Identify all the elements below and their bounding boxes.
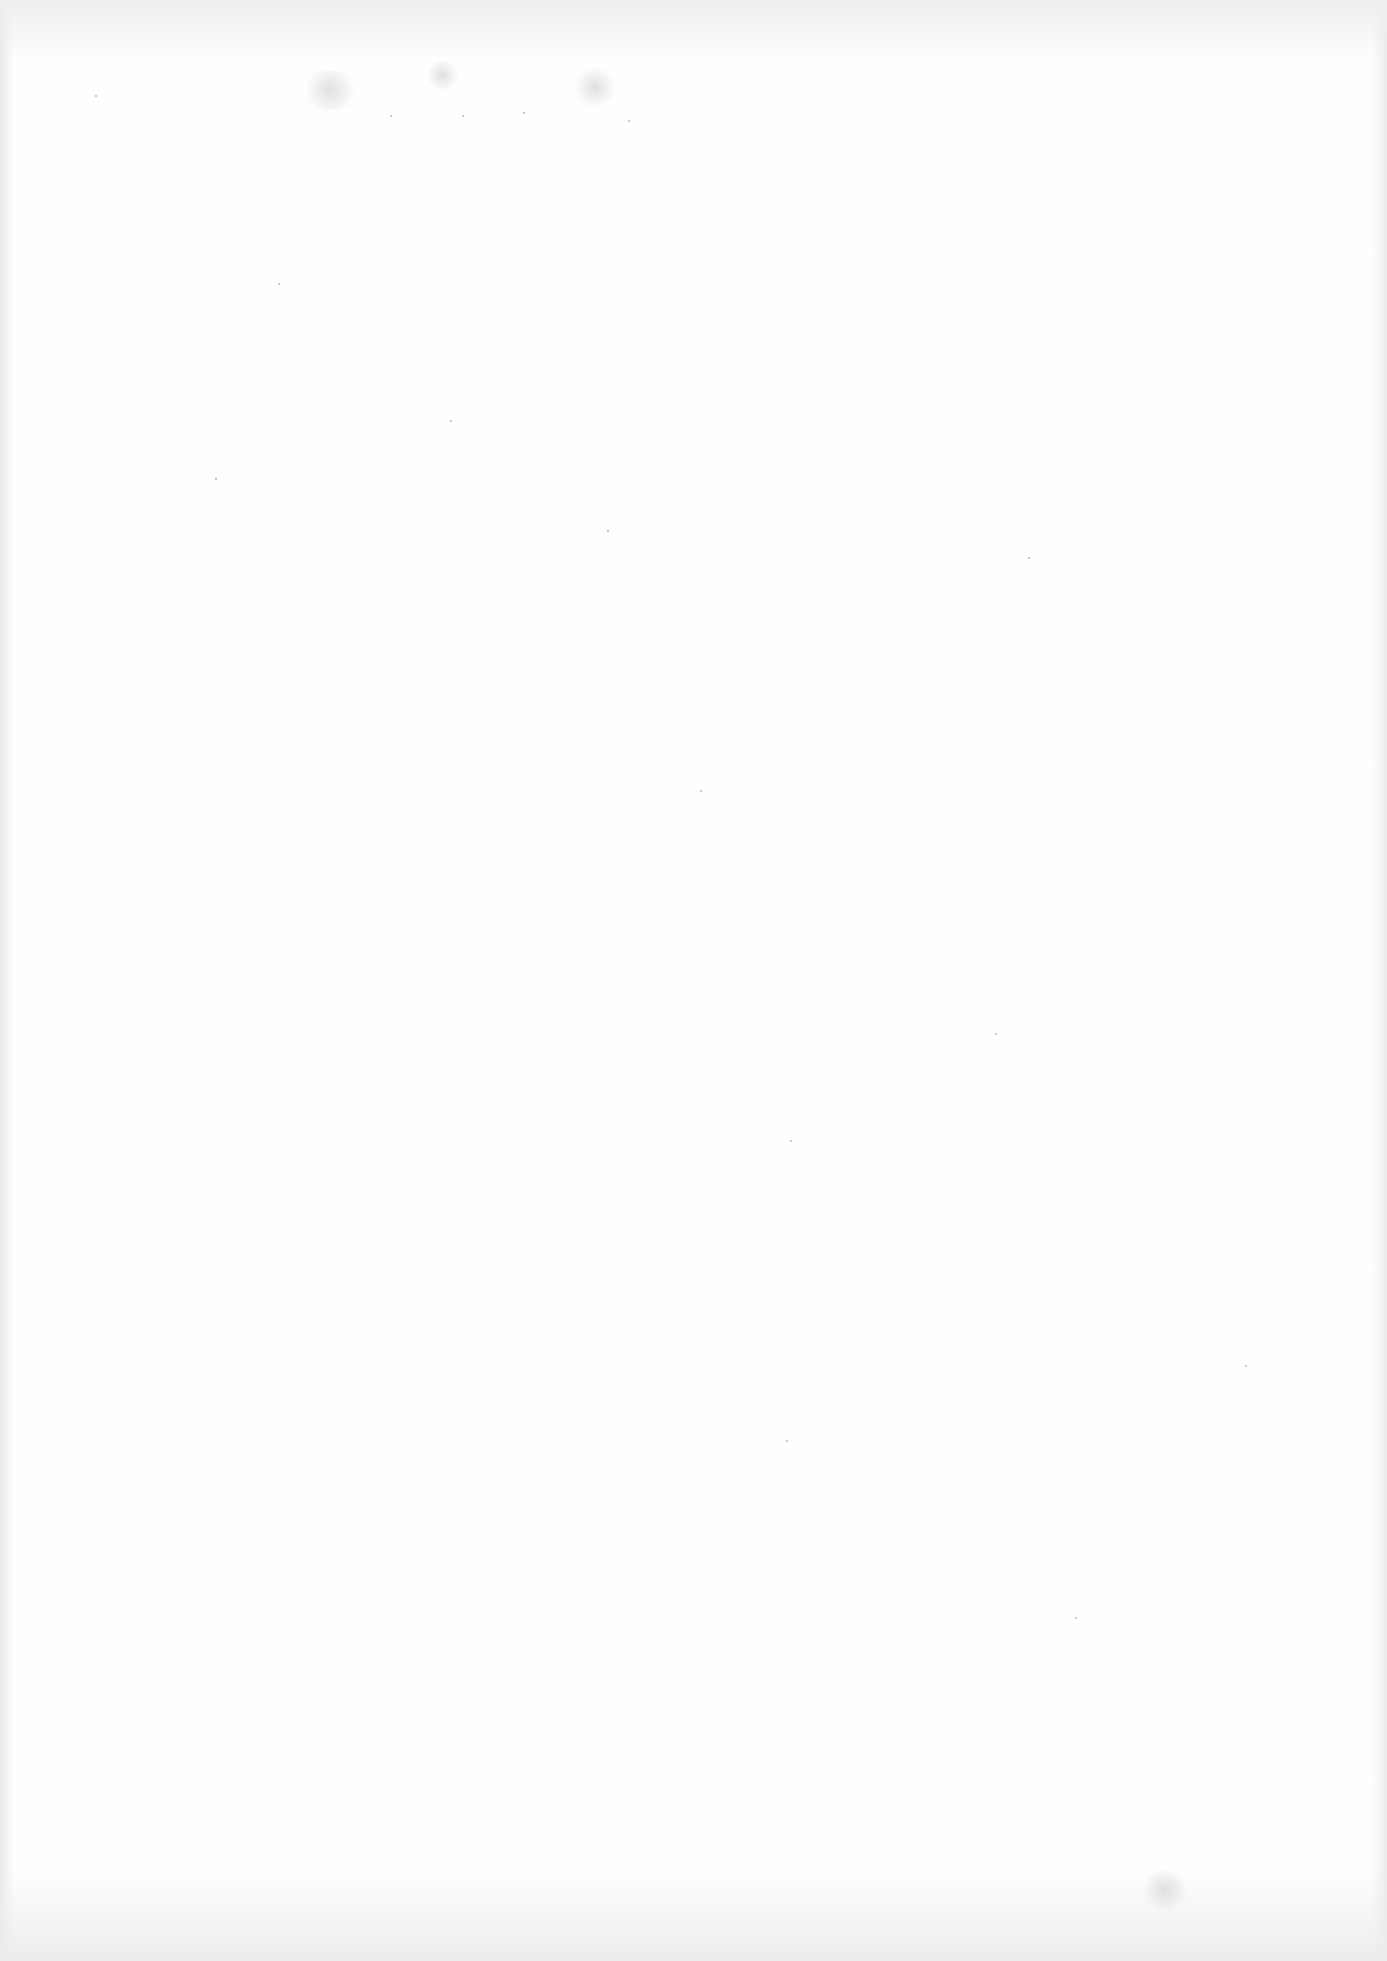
scan-speck	[278, 283, 280, 285]
scan-speck	[215, 478, 217, 480]
scan-smudge	[575, 65, 615, 110]
scan-speck	[523, 112, 525, 114]
scan-speck	[628, 120, 630, 122]
scan-speck	[1028, 557, 1030, 559]
scan-speck	[95, 95, 97, 97]
scan-speck	[607, 530, 609, 532]
scan-speck	[1075, 1617, 1077, 1619]
blank-scanned-page	[0, 0, 1387, 1961]
page-edge-shadow-left	[0, 0, 14, 1961]
page-edge-shadow-top	[0, 0, 1387, 60]
scan-speck	[786, 1440, 788, 1442]
scan-smudge	[425, 60, 460, 90]
scan-speck	[450, 420, 452, 422]
scan-speck	[390, 115, 392, 117]
scan-speck	[462, 115, 464, 117]
scan-speck	[995, 1033, 997, 1035]
page-edge-shadow-right	[1371, 0, 1387, 1961]
scan-speck	[790, 1140, 792, 1142]
scan-speck	[1245, 1365, 1247, 1367]
scan-smudge	[1140, 1870, 1190, 1910]
scan-smudge	[300, 70, 360, 110]
scan-speck	[700, 790, 702, 792]
